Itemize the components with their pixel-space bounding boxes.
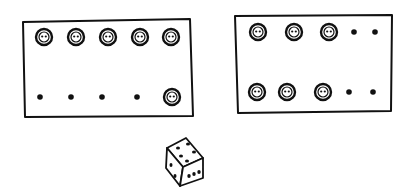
button-token — [36, 29, 52, 45]
button-hole — [288, 90, 290, 92]
die-pip-top — [185, 159, 189, 162]
button-hole — [105, 35, 107, 37]
button-hole — [73, 35, 75, 37]
button-inner-ring — [135, 32, 145, 42]
die-pip-left — [170, 163, 173, 167]
button-inner-ring — [103, 32, 113, 42]
dot — [68, 94, 74, 100]
button-token — [164, 89, 180, 105]
button-hole — [291, 30, 293, 32]
button-token — [321, 24, 337, 40]
button-hole — [77, 35, 79, 37]
die-pip-right — [187, 174, 190, 178]
button-hole — [295, 30, 297, 32]
button-hole — [258, 90, 260, 92]
button-hole — [254, 90, 256, 92]
button-inner-ring — [167, 92, 177, 102]
dot — [372, 29, 378, 35]
button-hole — [141, 35, 143, 37]
button-hole — [172, 35, 174, 37]
die-pip-top — [192, 150, 196, 153]
button-inner-ring — [318, 87, 328, 97]
button-token — [249, 84, 265, 100]
button-inner-ring — [253, 27, 263, 37]
right-board — [235, 15, 392, 113]
button-hole — [41, 35, 43, 37]
button-hole — [326, 30, 328, 32]
button-token — [132, 29, 148, 45]
button-hole — [330, 30, 332, 32]
button-token — [250, 24, 266, 40]
button-inner-ring — [252, 87, 262, 97]
button-token — [315, 84, 331, 100]
button-inner-ring — [324, 27, 334, 37]
button-hole — [109, 35, 111, 37]
dot — [37, 94, 43, 100]
button-hole — [173, 95, 175, 97]
button-token — [100, 29, 116, 45]
button-hole — [284, 90, 286, 92]
button-inner-ring — [289, 27, 299, 37]
left-board-bottom-row — [37, 89, 180, 105]
sketch-scene — [0, 0, 411, 194]
left-board-top-row — [36, 29, 179, 45]
dot — [134, 94, 140, 100]
button-token — [279, 84, 295, 100]
die — [166, 138, 203, 186]
dot — [99, 94, 105, 100]
button-token — [286, 24, 302, 40]
button-hole — [320, 90, 322, 92]
button-inner-ring — [71, 32, 81, 42]
die-pip-top — [176, 146, 180, 149]
right-board-frame — [235, 15, 392, 113]
left-board — [23, 19, 193, 117]
button-hole — [168, 35, 170, 37]
button-inner-ring — [39, 32, 49, 42]
die-pip-right — [197, 170, 200, 174]
button-hole — [255, 30, 257, 32]
button-inner-ring — [282, 87, 292, 97]
dot — [346, 89, 352, 95]
die-pip-right — [192, 172, 195, 176]
die-pip-top — [186, 142, 190, 145]
right-board-top-row — [250, 24, 378, 40]
button-hole — [45, 35, 47, 37]
button-token — [163, 29, 179, 45]
button-hole — [324, 90, 326, 92]
button-hole — [137, 35, 139, 37]
die-pip-left — [174, 174, 177, 178]
dot — [351, 29, 357, 35]
button-hole — [169, 95, 171, 97]
dot — [370, 89, 376, 95]
right-board-bottom-row — [249, 84, 376, 100]
die-pip-top — [179, 154, 183, 157]
button-hole — [259, 30, 261, 32]
button-token — [68, 29, 84, 45]
button-inner-ring — [166, 32, 176, 42]
